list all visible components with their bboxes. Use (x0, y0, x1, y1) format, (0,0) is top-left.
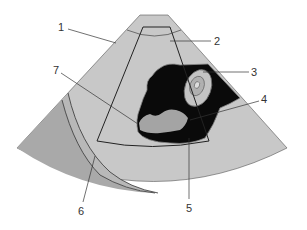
label-1: 1 (58, 21, 64, 33)
label-7: 7 (53, 64, 59, 76)
label-2: 2 (214, 35, 220, 47)
ultrasound-diagram: 1 2 3 4 5 6 7 (0, 0, 307, 230)
label-4: 4 (261, 93, 267, 105)
label-3: 3 (251, 66, 257, 78)
label-6: 6 (78, 205, 84, 217)
leader-line-1 (68, 29, 116, 43)
label-5: 5 (186, 202, 192, 214)
